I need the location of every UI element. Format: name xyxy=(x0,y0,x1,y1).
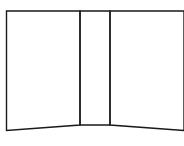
center-panel xyxy=(80,11,110,125)
trifold-diagram xyxy=(0,0,184,146)
left-panel xyxy=(7,11,81,131)
right-panel xyxy=(110,11,184,131)
